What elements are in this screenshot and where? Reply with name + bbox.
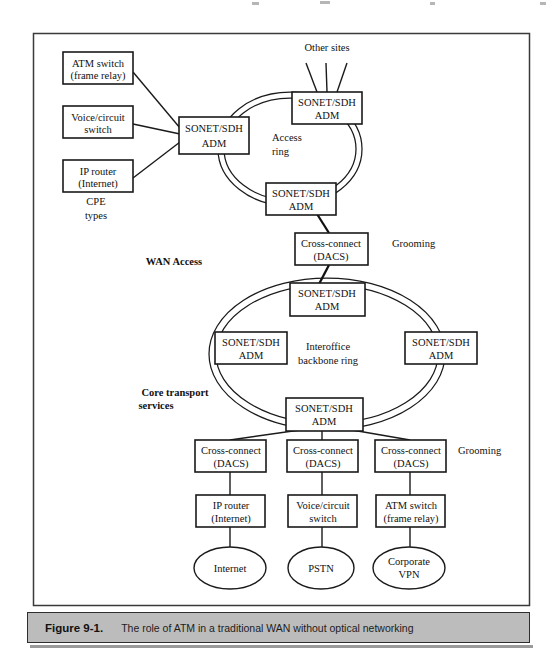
node-label-line1: Internet	[214, 563, 247, 574]
node-label-line2: ADM	[429, 350, 454, 361]
label-cpe-types-line1: CPE	[86, 196, 105, 207]
node-label-line1: Cross-connect	[293, 445, 353, 456]
node-label-line1: ATM switch	[72, 58, 125, 69]
node-label-line2: (Internet)	[211, 513, 251, 525]
node-cloud-pstn[interactable]: PSTN	[288, 547, 354, 589]
node-label-line1: SONET/SDH	[272, 188, 330, 199]
node-label-line1: ATM switch	[385, 500, 438, 511]
node-label-line2: switch	[84, 124, 112, 135]
label-core-transport-line2: services	[139, 400, 174, 411]
label-other-sites: Other sites	[304, 42, 349, 53]
other-sites-link-lines	[306, 63, 347, 92]
node-cpe-atm-switch[interactable]: ATM switch (frame relay)	[63, 52, 133, 84]
node-label-line1: SONET/SDH	[295, 403, 353, 414]
figure-caption-shadow	[30, 645, 533, 648]
node-service-atm-switch[interactable]: ATM switch (frame relay)	[376, 495, 445, 527]
label-wan-access: WAN Access	[146, 256, 202, 267]
label-grooming-bottom: Grooming	[458, 445, 502, 456]
node-service-voice-switch[interactable]: Voice/circuit switch	[288, 495, 357, 527]
node-dacs-left[interactable]: Cross-connect (DACS)	[195, 440, 266, 472]
node-label-line2: (DACS)	[305, 458, 341, 470]
node-label-line1: IP router	[213, 500, 250, 511]
node-label-line2: (DACS)	[313, 251, 349, 263]
node-label-line1: IP router	[80, 166, 117, 177]
node-label-line2: ADM	[315, 110, 340, 121]
node-service-ip-router[interactable]: IP router (Internet)	[196, 495, 265, 527]
node-label-line2: ADM	[202, 138, 227, 149]
node-label-line1: Cross-connect	[301, 238, 361, 249]
scan-speck	[540, 2, 546, 5]
node-label-line2: (DACS)	[393, 458, 429, 470]
node-label-line2: (Internet)	[78, 178, 118, 190]
node-label-line1: Voice/circuit	[296, 500, 350, 511]
node-label-line2: ADM	[315, 301, 340, 312]
node-label-line1: SONET/SDH	[298, 97, 356, 108]
label-access-ring-line2: ring	[272, 146, 290, 157]
node-label-line2: ADM	[289, 201, 314, 212]
label-access-ring-line1: Access	[272, 132, 302, 143]
node-label-line1: SONET/SDH	[412, 337, 470, 348]
label-interoffice-line2: backbone ring	[298, 355, 359, 366]
node-label-line1: PSTN	[308, 563, 334, 574]
node-backbone-adm-bottom[interactable]: SONET/SDH ADM	[286, 398, 363, 431]
node-backbone-adm-right[interactable]: SONET/SDH ADM	[405, 332, 477, 364]
figure-page: ATM switch (frame relay) Voice/circuit s…	[0, 0, 558, 661]
node-dacs-right[interactable]: Cross-connect (DACS)	[375, 440, 446, 472]
node-access-adm-bottom[interactable]: SONET/SDH ADM	[266, 183, 336, 215]
scan-speck	[430, 2, 435, 5]
node-backbone-adm-left[interactable]: SONET/SDH ADM	[215, 332, 287, 364]
node-label-line2: (frame relay)	[383, 513, 439, 525]
node-label-line1: SONET/SDH	[185, 123, 243, 134]
node-label-line2: switch	[309, 513, 337, 524]
node-label-line2: VPN	[398, 569, 419, 580]
label-grooming-top: Grooming	[392, 238, 436, 249]
node-label-line1: Cross-connect	[381, 445, 441, 456]
node-access-adm-top[interactable]: SONET/SDH ADM	[292, 92, 362, 124]
label-interoffice-line1: Interoffice	[306, 341, 350, 352]
node-label-line2: (frame relay)	[70, 70, 126, 82]
scan-speck	[320, 1, 330, 4]
node-cloud-corporate-vpn[interactable]: Corporate VPN	[373, 547, 445, 589]
node-label-line1: Voice/circuit	[71, 112, 125, 123]
node-label-line1: SONET/SDH	[298, 288, 356, 299]
node-label-line1: Corporate	[388, 556, 430, 567]
scan-speck	[252, 2, 259, 5]
node-access-adm-left[interactable]: SONET/SDH ADM	[179, 117, 249, 154]
node-label-line2: ADM	[312, 416, 337, 427]
node-dacs-center[interactable]: Cross-connect (DACS)	[287, 440, 358, 472]
node-cpe-ip-router[interactable]: IP router (Internet)	[63, 160, 133, 192]
label-core-transport-line1: Core transport	[141, 387, 209, 398]
node-label-line1: SONET/SDH	[222, 337, 280, 348]
node-cpe-voice-switch[interactable]: Voice/circuit switch	[63, 106, 133, 138]
node-backbone-adm-top[interactable]: SONET/SDH ADM	[290, 283, 365, 316]
node-label-line2: ADM	[239, 350, 264, 361]
label-cpe-types-line2: types	[85, 210, 107, 221]
node-dacs-mid[interactable]: Cross-connect (DACS)	[295, 233, 368, 265]
figure-caption-bar: Figure 9-1. The role of ATM in a traditi…	[27, 612, 530, 643]
node-label-line1: Cross-connect	[201, 445, 261, 456]
figure-caption-number: Figure 9-1.	[45, 622, 103, 634]
figure-caption-text: The role of ATM in a traditional WAN wit…	[121, 622, 413, 634]
cpe-link-lines	[133, 72, 180, 178]
network-diagram: ATM switch (frame relay) Voice/circuit s…	[0, 0, 558, 661]
node-cloud-internet[interactable]: Internet	[194, 547, 266, 589]
node-label-line2: (DACS)	[213, 458, 249, 470]
